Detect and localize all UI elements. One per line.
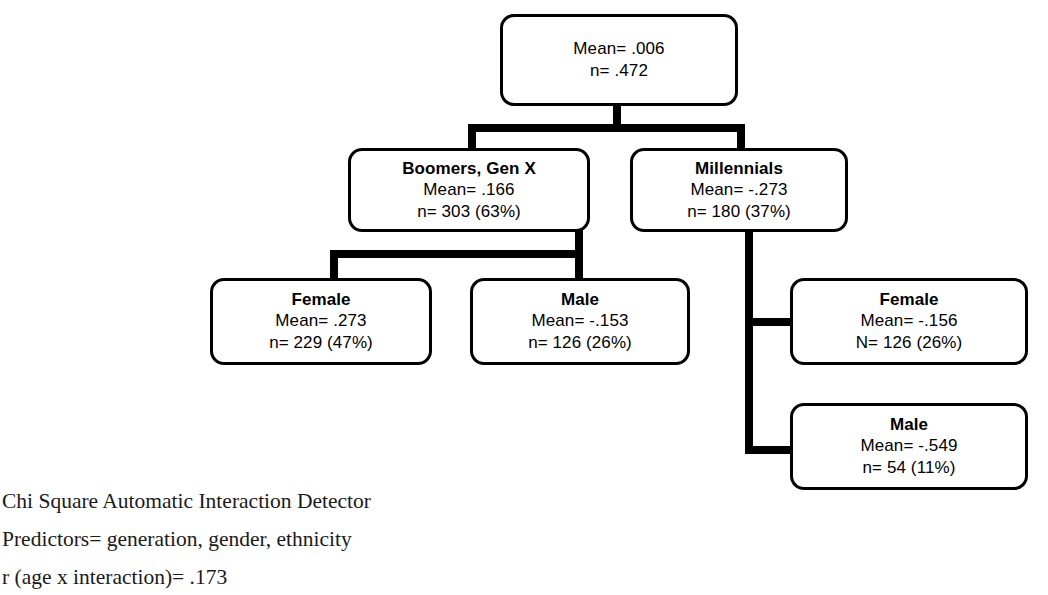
connector-drop-boomers-female [330, 250, 338, 280]
node-boomers-gen-x-title: Boomers, Gen X [402, 158, 536, 179]
node-millennials-title: Millennials [695, 158, 783, 179]
node-boomers-female-title: Female [291, 289, 350, 310]
node-millennials-male-mean: Mean= -.549 [860, 435, 957, 457]
node-boomers-female-n: n= 229 (47%) [269, 332, 373, 354]
node-millennials-n: n= 180 (37%) [687, 201, 791, 223]
connector-level2-horizontal-bar [468, 124, 745, 132]
node-millennials-female-mean: Mean= -.156 [860, 310, 957, 332]
node-millennials-male-title: Male [890, 414, 928, 435]
node-boomers-gen-x-mean: Mean= .166 [423, 179, 514, 201]
node-root[interactable]: Mean= .006 n= .472 [500, 14, 738, 106]
connector-millennials-trunk [745, 230, 753, 454]
connector-arm-millennials-male [745, 446, 793, 454]
connector-arm-millennials-female [745, 318, 793, 326]
node-boomers-male[interactable]: Male Mean= -.153 n= 126 (26%) [470, 278, 690, 365]
node-boomers-female-mean: Mean= .273 [275, 310, 366, 332]
node-millennials-male[interactable]: Male Mean= -.549 n= 54 (11%) [790, 403, 1028, 490]
connector-level3-left-horizontal-bar [330, 250, 583, 258]
node-boomers-male-mean: Mean= -.153 [531, 310, 628, 332]
connector-drop-boomers-male [575, 250, 583, 280]
chaid-tree-diagram: Mean= .006 n= .472 Boomers, Gen X Mean= … [0, 0, 1048, 595]
node-millennials-female-n: N= 126 (26%) [856, 332, 963, 354]
node-millennials-female[interactable]: Female Mean= -.156 N= 126 (26%) [790, 278, 1028, 365]
node-boomers-gen-x[interactable]: Boomers, Gen X Mean= .166 n= 303 (63%) [348, 148, 590, 232]
node-boomers-gen-x-n: n= 303 (63%) [417, 201, 521, 223]
caption-line-method: Chi Square Automatic Interaction Detecto… [2, 482, 371, 520]
node-root-mean: Mean= .006 [573, 38, 664, 60]
node-boomers-male-title: Male [561, 289, 599, 310]
caption-line-correlation: r (age x interaction)= .173 [2, 558, 227, 595]
node-boomers-female[interactable]: Female Mean= .273 n= 229 (47%) [210, 278, 432, 365]
node-boomers-male-n: n= 126 (26%) [528, 332, 632, 354]
node-millennials-male-n: n= 54 (11%) [863, 457, 956, 479]
node-millennials[interactable]: Millennials Mean= -.273 n= 180 (37%) [630, 148, 848, 232]
node-root-n: n= .472 [590, 60, 648, 82]
node-millennials-female-title: Female [879, 289, 938, 310]
node-millennials-mean: Mean= -.273 [690, 179, 787, 201]
caption-line-predictors: Predictors= generation, gender, ethnicit… [2, 520, 352, 558]
